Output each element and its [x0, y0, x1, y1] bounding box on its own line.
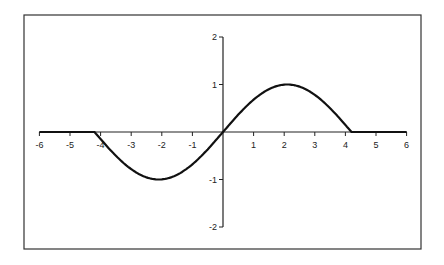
x-tick-label: 1: [251, 140, 256, 150]
y-tick-label: -1: [209, 175, 217, 185]
x-tick-label: 3: [312, 140, 317, 150]
x-tick-label: -1: [188, 140, 196, 150]
x-tick-label: 4: [343, 140, 348, 150]
chart: -6-5-4-3-2-112345621-1-2: [0, 0, 444, 265]
x-tick-label: 5: [373, 140, 378, 150]
y-tick-label: 2: [212, 32, 217, 42]
y-tick-label: 1: [212, 80, 217, 90]
x-tick-label: -3: [127, 140, 135, 150]
x-tick-label: 6: [404, 140, 409, 150]
x-tick-label: -5: [66, 140, 74, 150]
y-tick-label: -2: [209, 222, 217, 232]
x-tick-label: -6: [35, 140, 43, 150]
x-tick-label: 2: [282, 140, 287, 150]
x-tick-label: -2: [158, 140, 166, 150]
